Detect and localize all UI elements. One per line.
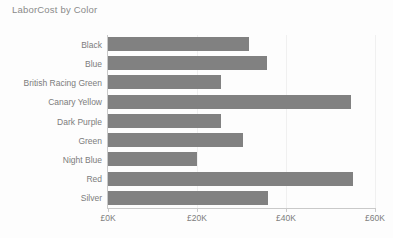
bar[interactable] (108, 75, 221, 89)
bar-row[interactable] (108, 54, 375, 73)
category-axis-label: Red (86, 174, 102, 184)
plot-area (108, 35, 375, 208)
bar[interactable] (108, 172, 353, 186)
category-axis-label: Blue (85, 59, 102, 69)
bar-row[interactable] (108, 93, 375, 112)
bar[interactable] (108, 37, 249, 51)
bar-row[interactable] (108, 131, 375, 150)
bar[interactable] (108, 114, 221, 128)
value-axis-tick-label: £20K (187, 213, 207, 223)
chart-title: LaborCost by Color (12, 4, 97, 15)
category-axis-label: Black (81, 40, 102, 50)
category-axis-label: Silver (81, 193, 102, 203)
chart-card: LaborCost by Color £0K£20K£40K£60K Black… (0, 0, 393, 238)
tick-mark (286, 208, 287, 212)
value-axis-tick-label: £40K (276, 213, 296, 223)
bar-row[interactable] (108, 73, 375, 92)
bar-row[interactable] (108, 35, 375, 54)
bar-row[interactable] (108, 189, 375, 208)
bar-row[interactable] (108, 170, 375, 189)
category-axis-label: Green (78, 136, 102, 146)
bar-row[interactable] (108, 150, 375, 169)
value-axis-tick-label: £60K (365, 213, 385, 223)
bar[interactable] (108, 191, 268, 205)
bar[interactable] (108, 95, 351, 109)
bar[interactable] (108, 133, 243, 147)
category-axis-label: Night Blue (63, 155, 102, 165)
gridline (375, 35, 376, 208)
value-axis-line (107, 208, 375, 209)
bar-row[interactable] (108, 112, 375, 131)
category-axis-label: Dark Purple (57, 117, 102, 127)
bar[interactable] (108, 152, 197, 166)
bar[interactable] (108, 56, 267, 70)
tick-mark (197, 208, 198, 212)
category-axis-label: British Racing Green (24, 78, 102, 88)
tick-mark (375, 208, 376, 212)
value-axis-tick-label: £0K (100, 213, 115, 223)
tick-mark (108, 208, 109, 212)
category-axis-label: Canary Yellow (48, 97, 102, 107)
